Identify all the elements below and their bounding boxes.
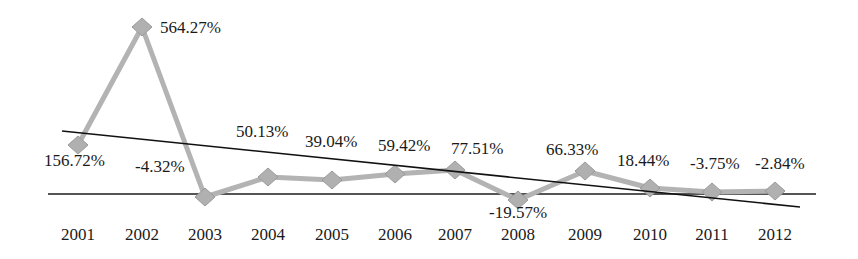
data-label-2009: 66.33% — [546, 141, 598, 158]
xtick-2001: 2001 — [48, 226, 108, 243]
line-chart: 156.72% 564.27% -4.32% 50.13% 39.04% 59.… — [0, 0, 858, 259]
chart-plot-area — [0, 0, 858, 259]
xtick-2007: 2007 — [425, 226, 485, 243]
marker-2002 — [132, 18, 152, 36]
xtick-2008: 2008 — [488, 226, 548, 243]
xtick-2004: 2004 — [238, 226, 298, 243]
data-label-2008: -19.57% — [489, 204, 547, 221]
xtick-2006: 2006 — [365, 226, 425, 243]
marker-2006 — [385, 165, 405, 183]
xtick-2002: 2002 — [112, 226, 172, 243]
xtick-2009: 2009 — [555, 226, 615, 243]
data-label-2006: 59.42% — [378, 137, 430, 154]
xtick-2012: 2012 — [745, 226, 805, 243]
xtick-2005: 2005 — [302, 226, 362, 243]
marker-2003 — [195, 188, 215, 206]
data-label-2005: 39.04% — [305, 133, 357, 150]
data-label-2012: -2.84% — [755, 155, 805, 172]
xtick-2010: 2010 — [620, 226, 680, 243]
data-label-2002: 564.27% — [160, 19, 221, 36]
data-label-2004: 50.13% — [236, 123, 288, 140]
data-label-2007: 77.51% — [451, 140, 503, 157]
marker-2012 — [765, 182, 785, 200]
data-label-2011: -3.75% — [690, 155, 740, 172]
marker-2009 — [575, 162, 595, 180]
data-label-2010: 18.44% — [617, 152, 669, 169]
marker-2005 — [322, 171, 342, 189]
data-label-2003: -4.32% — [135, 158, 185, 175]
marker-2004 — [258, 168, 278, 186]
xtick-2011: 2011 — [682, 226, 742, 243]
data-label-2001: 156.72% — [44, 152, 105, 169]
xtick-2003: 2003 — [175, 226, 235, 243]
